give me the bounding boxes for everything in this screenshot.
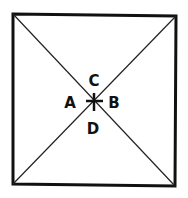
label-c: C (88, 72, 99, 90)
center-cross-marker (86, 93, 103, 111)
label-a: A (64, 94, 76, 112)
label-d: D (87, 120, 99, 138)
label-b: B (108, 94, 119, 112)
diagram-canvas: C A B D (0, 0, 188, 198)
